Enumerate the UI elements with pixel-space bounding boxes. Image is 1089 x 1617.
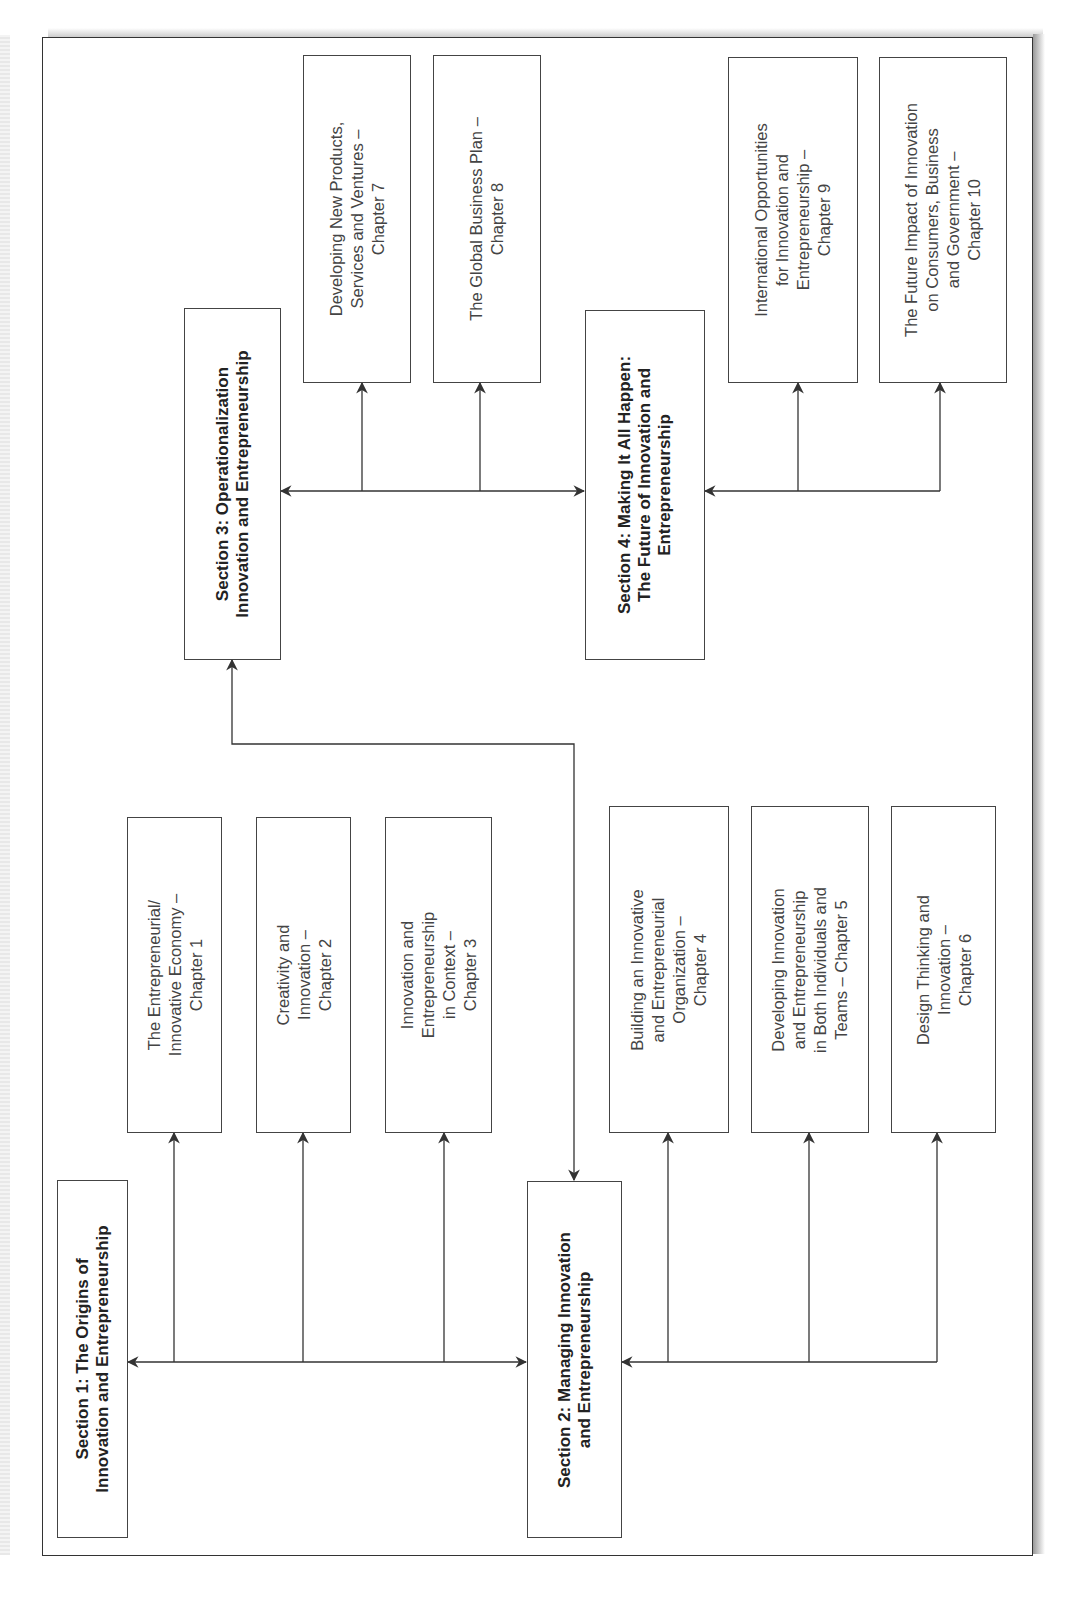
chapter-2-label: Creativity and Innovation – Chapter 2 [272,817,335,1133]
chapter-3-label: Innovation and Entrepreneurship in Conte… [397,817,481,1133]
section-1-label: Section 1: The Origins of Innovation and… [73,1180,113,1538]
section-3-box: Section 3: Operationalization Innovation… [184,308,281,660]
chapter-8-label: The Global Business Plan – Chapter 8 [466,55,508,383]
chapter-5-label: Developing Innovation and Entrepreneursh… [768,806,852,1133]
chapter-9-label: International Opportunities for Innovati… [751,57,835,383]
chapter-4-label: Building an Innovative and Entrepreneuri… [627,806,711,1133]
chapter-6-label: Design Thinking and Innovation – Chapter… [912,806,975,1133]
section-2-label: Section 2: Managing Innovation and Entre… [555,1181,595,1538]
chapter-6-box: Design Thinking and Innovation – Chapter… [891,806,996,1133]
section-3-label: Section 3: Operationalization Innovation… [213,308,253,660]
section-1-box: Section 1: The Origins of Innovation and… [57,1180,128,1538]
chapter-1-label: The Entrepreneurial/ Innovative Economy … [143,817,206,1133]
chapter-2-box: Creativity and Innovation – Chapter 2 [256,817,351,1133]
section-4-label: Section 4: Making It All Happen: The Fut… [615,310,675,660]
chapter-7-label: Developing New Products, Services and Ve… [326,55,389,383]
chapter-1-box: The Entrepreneurial/ Innovative Economy … [127,817,222,1133]
chapter-9-box: International Opportunities for Innovati… [728,57,858,383]
chapter-8-box: The Global Business Plan – Chapter 8 [433,55,541,383]
section-2-box: Section 2: Managing Innovation and Entre… [527,1181,622,1538]
chapter-7-box: Developing New Products, Services and Ve… [303,55,411,383]
section-4-box: Section 4: Making It All Happen: The Fut… [585,310,705,660]
chapter-4-box: Building an Innovative and Entrepreneuri… [609,806,729,1133]
chapter-10-label: The Future Impact of Innovation on Consu… [901,57,985,383]
chapter-3-box: Innovation and Entrepreneurship in Conte… [385,817,492,1133]
chapter-5-box: Developing Innovation and Entrepreneursh… [751,806,869,1133]
chapter-10-box: The Future Impact of Innovation on Consu… [879,57,1007,383]
